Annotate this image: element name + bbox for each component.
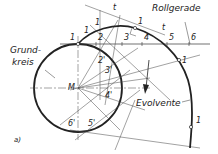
involute-label: Evolvente — [136, 99, 181, 108]
circle-point-5: 5' — [88, 120, 95, 128]
base-circle-label-1: Grund- — [10, 46, 41, 55]
tangent-label-a: t — [113, 4, 116, 12]
center-label: M — [68, 84, 75, 92]
involute-point-1a: 1 — [84, 27, 89, 35]
involute-point-1d: 1 — [182, 57, 187, 65]
figure-label: a) — [14, 137, 21, 144]
base-circle-label-2: kreis — [12, 58, 34, 67]
circle-point-3: 3' — [105, 67, 112, 75]
roll-line-label: Rollgerade — [152, 4, 200, 13]
circle-point-2: 2' — [98, 57, 105, 65]
rolling-direction-arrow — [143, 84, 149, 94]
roll-point-5: 5 — [169, 34, 174, 42]
roll-point-1: 1 — [70, 34, 75, 42]
involute-diagram — [0, 0, 218, 154]
circle-point-4: 4' — [105, 92, 112, 100]
involute-point-1c: 1 — [138, 18, 143, 26]
roll-point-2: 2 — [98, 34, 103, 42]
involute-point-1b: 1 — [95, 19, 100, 27]
roll-point-4: 4 — [144, 34, 149, 42]
roll-point-3: 3 — [124, 34, 129, 42]
tangent-label-b: t — [162, 24, 165, 32]
involute-point-1e: 1 — [196, 117, 201, 125]
roll-point-6: 6 — [191, 34, 196, 42]
circle-point-6: 6' — [68, 120, 75, 128]
